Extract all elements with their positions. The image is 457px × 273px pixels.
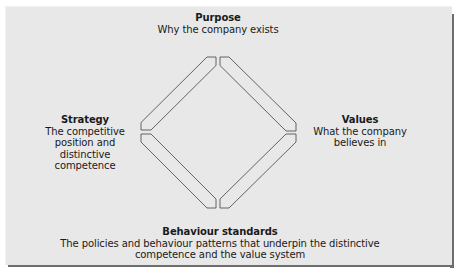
connector-values-behaviour <box>220 134 296 208</box>
node-values-title: Values <box>300 114 420 126</box>
connector-behaviour-strategy <box>141 134 216 208</box>
node-purpose-desc: Why the company exists <box>128 24 308 36</box>
node-behaviour-title: Behaviour standards <box>60 226 380 238</box>
node-strategy: Strategy The competitive position and di… <box>30 114 140 172</box>
node-values-desc: What the company believes in <box>300 126 420 149</box>
node-values: Values What the company believes in <box>300 114 420 149</box>
node-behaviour-desc: The policies and behaviour patterns that… <box>60 238 380 261</box>
node-purpose-title: Purpose <box>128 12 308 24</box>
node-purpose: Purpose Why the company exists <box>128 12 308 35</box>
node-behaviour-standards: Behaviour standards The policies and beh… <box>60 226 380 261</box>
connector-purpose-values <box>220 57 296 131</box>
node-strategy-desc: The competitive position and distinctive… <box>30 126 140 172</box>
connector-strategy-purpose <box>141 57 216 130</box>
node-strategy-title: Strategy <box>30 114 140 126</box>
